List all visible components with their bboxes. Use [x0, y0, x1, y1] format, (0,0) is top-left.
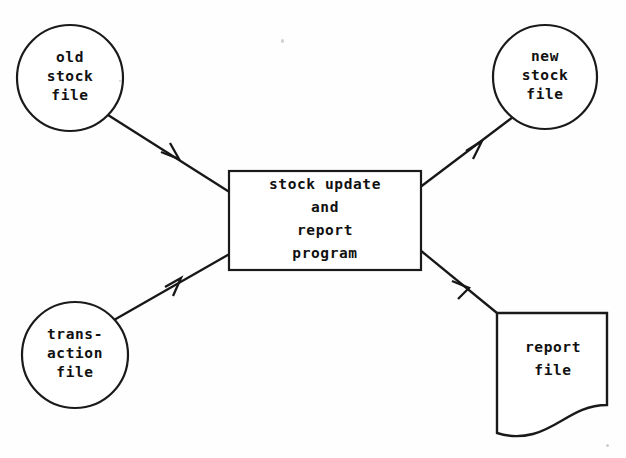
connector-process-to-report	[420, 250, 497, 313]
node-new-stock-file[interactable]	[493, 25, 597, 129]
connector-old-stock-to-process	[108, 115, 231, 193]
connector-process-to-new-stock	[419, 117, 513, 188]
flowchart-canvas: old stock file trans- action file stock …	[0, 0, 626, 458]
node-transaction-file[interactable]	[22, 302, 128, 408]
node-old-stock-file[interactable]	[17, 25, 123, 131]
connector-transaction-to-process	[114, 252, 233, 320]
node-report-file[interactable]	[497, 313, 607, 436]
flowchart-svg	[0, 0, 626, 458]
node-process-box[interactable]	[229, 171, 421, 270]
